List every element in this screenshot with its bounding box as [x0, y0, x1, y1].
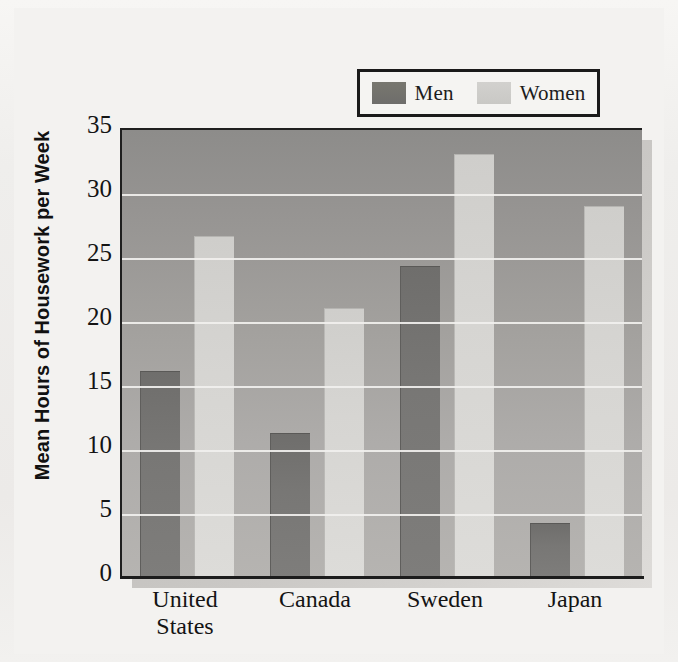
legend-entry-women: Women: [477, 81, 586, 106]
x-axis-line: [120, 576, 644, 579]
x-tick-line: Sweden: [380, 586, 510, 613]
chart-figure: Mean Hours of Housework per Week 0510152…: [0, 0, 678, 662]
legend-label-men: Men: [415, 81, 454, 106]
x-tick-line: Canada: [250, 586, 380, 613]
x-tick-canada: Canada: [250, 586, 380, 613]
legend-swatch-men: [372, 82, 406, 104]
x-tick-line: Japan: [510, 586, 640, 613]
x-tick-line: States: [120, 613, 250, 640]
x-tick-japan: Japan: [510, 586, 640, 613]
chart-legend: Men Women: [357, 69, 600, 117]
legend-swatch-women: [477, 82, 511, 104]
legend-label-women: Women: [520, 81, 586, 106]
x-tick-line: United: [120, 586, 250, 613]
x-tick-united-states: UnitedStates: [120, 586, 250, 640]
x-tick-sweden: Sweden: [380, 586, 510, 613]
legend-entry-men: Men: [372, 81, 454, 106]
chart-plate: Mean Hours of Housework per Week 0510152…: [14, 8, 664, 654]
